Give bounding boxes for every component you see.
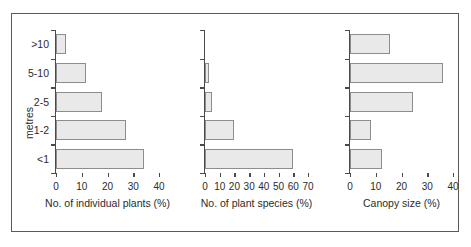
chart-panel-plant-species: No. of plant species (%) 010203040506070 xyxy=(173,13,318,232)
bar xyxy=(350,34,390,54)
x-axis-tick xyxy=(350,173,351,177)
y-axis-tick-labels: >105-102-51-2<1 xyxy=(11,30,53,173)
x-axis-tick xyxy=(108,173,109,177)
y-axis-tick-label: <1 xyxy=(37,153,49,165)
y-axis-tick xyxy=(200,30,205,31)
x-axis-tick-label: 70 xyxy=(302,181,313,192)
bar xyxy=(350,92,413,112)
bar xyxy=(350,120,371,140)
bar xyxy=(56,92,102,112)
y-axis-tick-label: 5-10 xyxy=(28,67,49,79)
x-axis-title: No. of plant species (%) xyxy=(201,197,312,209)
x-axis-tick xyxy=(234,173,235,177)
x-axis-tick xyxy=(427,173,428,177)
y-axis-tick xyxy=(345,116,350,117)
x-axis-tick xyxy=(56,173,57,177)
bar xyxy=(350,63,443,83)
x-axis-tick-label: 30 xyxy=(422,181,433,192)
y-axis-tick xyxy=(51,87,56,88)
bar xyxy=(56,149,144,169)
y-axis-tick xyxy=(345,30,350,31)
x-axis-tick xyxy=(159,173,160,177)
y-axis-tick-label: >10 xyxy=(31,38,49,50)
y-axis-tick xyxy=(200,144,205,145)
bar xyxy=(350,149,382,169)
y-axis-tick xyxy=(200,59,205,60)
y-axis-tick-label: 2-5 xyxy=(34,96,49,108)
bar xyxy=(205,120,234,140)
y-axis-tick-label: 1-2 xyxy=(34,124,49,136)
x-axis-tick-label: 30 xyxy=(128,181,139,192)
bar xyxy=(205,92,212,112)
x-axis-title: No. of individual plants (%) xyxy=(45,197,170,209)
x-axis-tick-label: 40 xyxy=(258,181,269,192)
panel-group: metres >105-102-51-2<1 No. of individual… xyxy=(11,13,459,232)
chart-panel-individual-plants: metres >105-102-51-2<1 No. of individual… xyxy=(11,13,173,232)
plot-area-individual-plants: No. of individual plants (%) 010203040 xyxy=(55,30,159,173)
x-axis-tick-label: 20 xyxy=(229,181,240,192)
bar xyxy=(205,63,209,83)
x-axis-tick xyxy=(220,173,221,177)
y-axis-tick xyxy=(51,30,56,31)
x-axis-tick-label: 60 xyxy=(288,181,299,192)
y-axis-tick xyxy=(200,116,205,117)
x-axis-tick xyxy=(376,173,377,177)
x-axis-tick-label: 10 xyxy=(76,181,87,192)
plot-area-plant-species: No. of plant species (%) 010203040506070 xyxy=(204,30,308,173)
x-axis-tick xyxy=(82,173,83,177)
figure: metres >105-102-51-2<1 No. of individual… xyxy=(0,0,471,247)
x-axis-tick xyxy=(453,173,454,177)
x-axis-tick xyxy=(205,173,206,177)
bar xyxy=(205,149,293,169)
x-axis-title: Canopy size (%) xyxy=(363,197,440,209)
x-axis-tick xyxy=(264,173,265,177)
y-axis-tick xyxy=(345,144,350,145)
x-axis-tick-label: 50 xyxy=(273,181,284,192)
bar xyxy=(56,63,86,83)
x-axis-tick-label: 30 xyxy=(244,181,255,192)
x-axis-tick-label: 40 xyxy=(153,181,164,192)
y-axis-tick xyxy=(345,87,350,88)
x-axis-tick-label: 10 xyxy=(370,181,381,192)
bar xyxy=(56,120,126,140)
x-axis-tick xyxy=(293,173,294,177)
y-axis-tick xyxy=(51,144,56,145)
x-axis-tick xyxy=(249,173,250,177)
x-axis-tick xyxy=(133,173,134,177)
chart-panel-canopy-size: Canopy size (%) 010203040 xyxy=(318,13,459,232)
x-axis-tick xyxy=(279,173,280,177)
plot-area-canopy-size: Canopy size (%) 010203040 xyxy=(349,30,453,173)
y-axis-tick xyxy=(51,116,56,117)
x-axis-tick-label: 20 xyxy=(396,181,407,192)
y-axis-tick xyxy=(51,59,56,60)
x-axis-tick-label: 0 xyxy=(202,181,208,192)
y-axis-tick xyxy=(200,87,205,88)
x-axis-tick-label: 10 xyxy=(214,181,225,192)
x-axis-tick-label: 40 xyxy=(447,181,458,192)
x-axis-tick xyxy=(308,173,309,177)
x-axis-tick-label: 0 xyxy=(53,181,59,192)
x-axis-tick-label: 20 xyxy=(102,181,113,192)
y-axis-tick xyxy=(345,59,350,60)
x-axis-tick xyxy=(402,173,403,177)
x-axis-tick-label: 0 xyxy=(347,181,353,192)
bar xyxy=(56,34,66,54)
